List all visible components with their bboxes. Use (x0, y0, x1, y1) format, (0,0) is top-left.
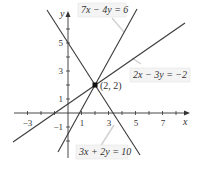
chart-canvas: −3 1 3 5 7 x −1 1 3 5 y (2, 2) 7x − 4y =… (0, 0, 198, 169)
line-7x-4y-6 (58, 9, 137, 152)
x-tick-label: 7 (161, 118, 166, 128)
x-tick-label: 3 (107, 118, 112, 128)
y-tick-label: 3 (59, 66, 64, 76)
y-tick-label: 5 (59, 38, 64, 48)
intersection-point (93, 83, 98, 88)
x-tick-label: 1 (80, 118, 85, 128)
line-2x-3y-m2 (13, 23, 185, 142)
label-eq2: 2x − 3y = −2 (130, 68, 190, 82)
label-eq1: 7x − 4y = 6 (78, 3, 128, 17)
y-tick-label: −1 (53, 122, 63, 132)
svg-text:2x − 3y = −2: 2x − 3y = −2 (133, 69, 187, 80)
x-axis-arrow-icon (184, 111, 190, 116)
svg-text:7x − 4y = 6: 7x − 4y = 6 (81, 4, 128, 15)
point-label: (2, 2) (100, 80, 122, 92)
y-tick-label: 1 (59, 94, 64, 104)
y-axis-label: y (59, 8, 65, 19)
x-tick-label: −3 (23, 118, 33, 128)
y-axis-arrow-icon (66, 11, 71, 17)
x-tick-label: 5 (134, 118, 139, 128)
x-axis-label: x (182, 116, 188, 127)
label-eq3: 3x + 2y = 10 (76, 145, 131, 159)
svg-text:3x + 2y = 10: 3x + 2y = 10 (78, 146, 131, 157)
